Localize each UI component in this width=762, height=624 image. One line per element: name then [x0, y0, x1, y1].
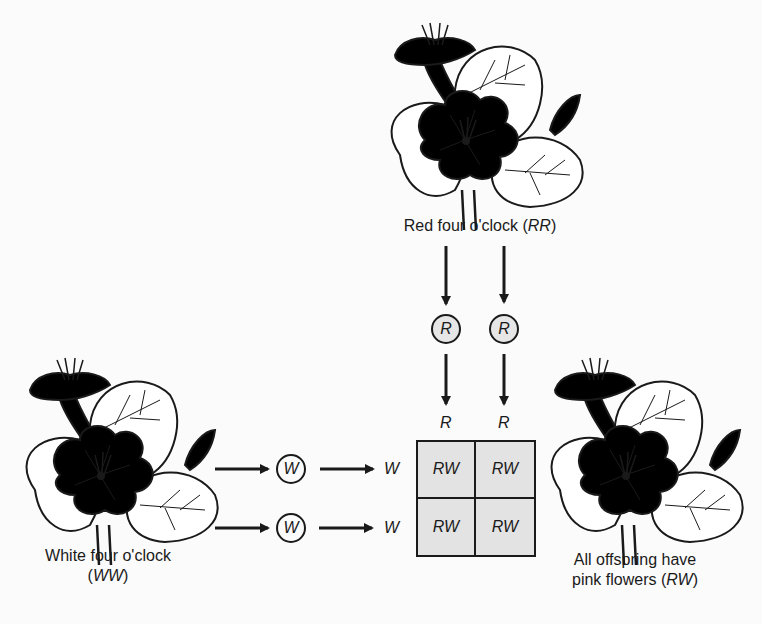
white-label-suffix: ): [123, 567, 128, 584]
pink-flower-illustration: [552, 358, 743, 565]
white-label-line2: (WW): [0, 566, 216, 586]
offspring-label-line1: All offspring have: [530, 550, 740, 570]
white-label-line1: White four o'clock: [0, 546, 216, 566]
punnett-square: RW RW RW RW: [416, 440, 536, 557]
red-label-suffix: ): [551, 217, 556, 234]
punnett-row-header: W: [384, 460, 399, 478]
punnett-cell: RW: [418, 499, 476, 556]
offspring-label: All offspring have pink flowers (RW): [530, 550, 740, 590]
white-parent-label: White four o'clock (WW): [0, 546, 216, 586]
gamete-white-2: W: [276, 513, 306, 543]
punnett-column-header: R: [440, 414, 452, 432]
punnett-cell: RW: [476, 499, 534, 556]
red-label-text: Red four o'clock (: [404, 217, 528, 234]
white-genotype: WW: [93, 567, 123, 584]
offspring-label-suffix: ): [693, 571, 698, 588]
punnett-column-header: R: [498, 414, 510, 432]
white-flower-illustration: [27, 358, 218, 565]
punnett-cell: RW: [476, 442, 534, 499]
offspring-genotype: RW: [666, 571, 692, 588]
gamete-white-1: W: [276, 454, 306, 484]
diagram-artwork: .rp .petal{fill:#9a9a9a}.rp .bud{fill:#9…: [0, 0, 762, 624]
offspring-label-prefix: pink flowers (: [572, 571, 666, 588]
punnett-cell: RW: [418, 442, 476, 499]
offspring-label-line2: pink flowers (RW): [530, 570, 740, 590]
gamete-red-2: R: [489, 314, 519, 344]
punnett-row-header: W: [384, 519, 399, 537]
red-parent-label: Red four o'clock (RR): [370, 216, 590, 236]
red-genotype: RR: [528, 217, 551, 234]
gamete-red-1: R: [431, 314, 461, 344]
red-flower-illustration: .rp .petal{fill:#9a9a9a}.rp .bud{fill:#9…: [392, 23, 583, 230]
